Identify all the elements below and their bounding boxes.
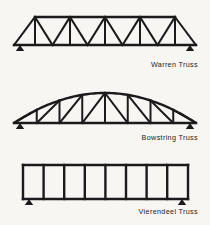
warren-diagonal-2: [53, 17, 71, 45]
truss-diagram-figure: Warren Truss Bowstring Truss Vierendeel …: [0, 0, 210, 225]
warren-diagonal-3: [70, 17, 88, 45]
warren-diagonal-0: [14, 17, 35, 45]
warren-diagonal-9: [175, 17, 196, 45]
bowstring-truss-caption: Bowstring Truss: [142, 133, 198, 142]
warren-diagonal-7: [140, 17, 158, 45]
bowstring-diagonal-4: [105, 93, 128, 123]
vierendeel-truss-caption: Vierendeel Truss: [139, 207, 198, 216]
bowstring-diagonal-0: [14, 110, 37, 123]
warren-diagonal-8: [158, 17, 176, 45]
warren-diagonal-1: [35, 17, 53, 45]
warren-diagonal-4: [88, 17, 106, 45]
warren-truss-caption: Warren Truss: [151, 60, 198, 69]
bowstring-diagonal-7: [173, 110, 196, 123]
warren-diagonal-5: [105, 17, 123, 45]
bowstring-diagonal-3: [82, 93, 105, 123]
warren-diagonal-6: [123, 17, 141, 45]
